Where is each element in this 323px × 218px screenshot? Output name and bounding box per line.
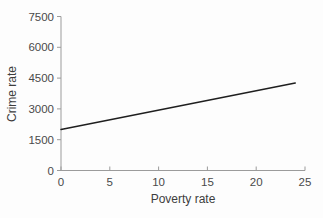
x-tick-label: 15	[201, 176, 214, 188]
y-tick-label: 3000	[28, 103, 54, 115]
y-tick-label: 4500	[28, 72, 54, 84]
x-tick-label: 20	[250, 176, 263, 188]
x-tick-label: 25	[299, 176, 312, 188]
x-tick-label: 5	[107, 176, 113, 188]
plot-svg: 0150030004500600075000510152025 Crime ra…	[0, 0, 323, 218]
y-axis-title: Crime rate	[5, 66, 19, 122]
y-tick-label: 7500	[28, 11, 54, 23]
y-tick-label: 0	[48, 165, 54, 177]
x-tick-label: 10	[152, 176, 165, 188]
x-tick-label: 0	[58, 176, 64, 188]
y-tick-label: 1500	[28, 134, 54, 146]
crime-vs-poverty-chart: 0150030004500600075000510152025 Crime ra…	[0, 0, 323, 218]
y-tick-label: 6000	[28, 41, 54, 53]
x-axis-title: Poverty rate	[151, 192, 216, 206]
